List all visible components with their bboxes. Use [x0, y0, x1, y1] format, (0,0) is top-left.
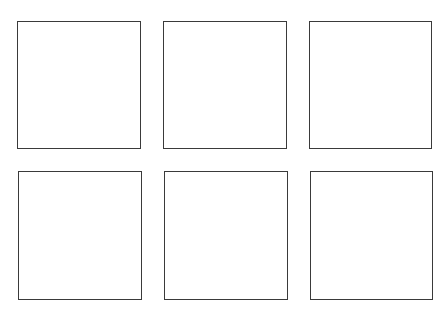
- empty-box-r1-c2: [163, 21, 287, 149]
- empty-box-r2-c1: [18, 171, 142, 300]
- empty-box-r2-c3: [310, 171, 433, 300]
- empty-box-r1-c1: [17, 21, 141, 149]
- empty-box-r2-c2: [164, 171, 288, 300]
- empty-box-r1-c3: [309, 21, 432, 149]
